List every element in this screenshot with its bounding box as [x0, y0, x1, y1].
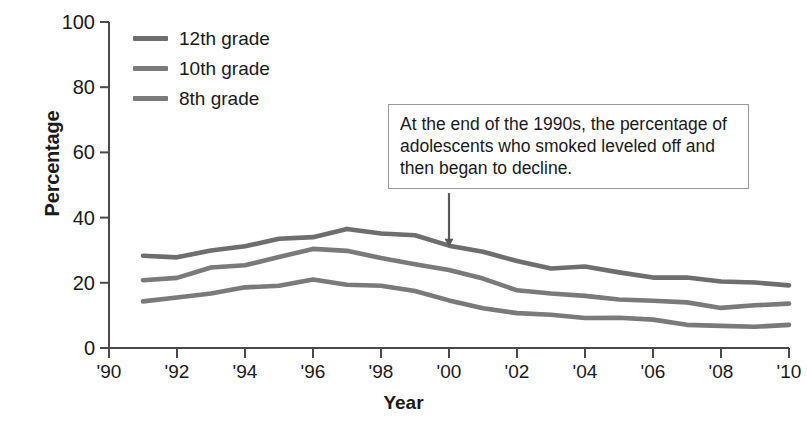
x-tick-label: '92	[147, 362, 207, 382]
x-axis-label: Year	[0, 392, 807, 414]
chart-legend: 12th grade10th grade8th grade	[133, 26, 270, 116]
x-tick-label: '08	[691, 362, 751, 382]
x-tick-label: '06	[623, 362, 683, 382]
x-tick-label: '10	[759, 362, 807, 382]
legend-color-swatch	[133, 66, 168, 71]
legend-label: 12th grade	[179, 29, 270, 48]
x-tick-label: '90	[79, 362, 139, 382]
x-tick-label: '98	[351, 362, 411, 382]
annotation-pointer-arrow	[445, 193, 454, 247]
x-tick-label: '94	[215, 362, 275, 382]
legend-label: 10th grade	[179, 59, 270, 78]
annotation-callout-box: At the end of the 1990s, the percentage …	[388, 104, 749, 189]
x-tick-label: '04	[555, 362, 615, 382]
legend-label: 8th grade	[179, 89, 259, 108]
legend-item-8th-grade: 8th grade	[133, 86, 270, 111]
y-tick-label: 20	[21, 273, 95, 293]
legend-item-12th-grade: 12th grade	[133, 26, 270, 51]
chart-series-lines	[143, 229, 789, 327]
chart-figure: Percentage Year 020406080100 '90'92'94'9…	[0, 0, 807, 428]
x-tick-label: '02	[487, 362, 547, 382]
annotation-text: At the end of the 1990s, the percentage …	[400, 113, 737, 179]
legend-item-10th-grade: 10th grade	[133, 56, 270, 81]
y-tick-label: 0	[21, 338, 95, 358]
y-tick-label: 100	[21, 12, 95, 32]
legend-color-swatch	[133, 96, 168, 101]
x-tick-label: '00	[419, 362, 479, 382]
y-tick-label: 40	[21, 208, 95, 228]
legend-color-swatch	[133, 36, 168, 41]
y-tick-label: 60	[21, 142, 95, 162]
x-tick-label: '96	[283, 362, 343, 382]
y-tick-label: 80	[21, 77, 95, 97]
y-axis-label: Percentage	[41, 104, 64, 224]
